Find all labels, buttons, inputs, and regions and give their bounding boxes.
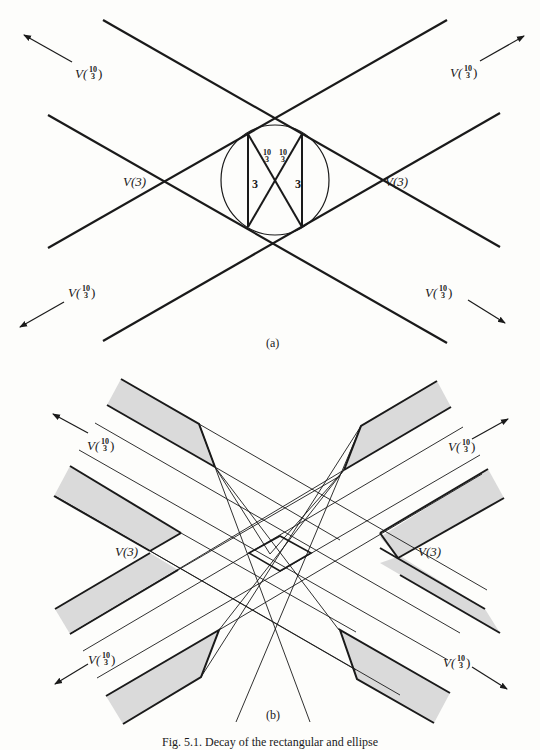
arrow-a-top-left bbox=[24, 35, 72, 62]
label-b-top-left: V( 10 3 ) bbox=[87, 437, 114, 453]
panel-b-thin-lines-desc bbox=[55, 423, 487, 695]
label-b-bottom-right: V( 10 3 ) bbox=[443, 654, 470, 670]
label-b-top-right: V( 10 3 ) bbox=[448, 438, 475, 454]
svg-text:V(: V( bbox=[425, 285, 438, 300]
svg-text:3: 3 bbox=[281, 155, 285, 164]
svg-text:3: 3 bbox=[464, 445, 468, 454]
arrow-a-top-right bbox=[480, 36, 524, 61]
svg-text:V(: V( bbox=[88, 652, 101, 667]
svg-text:3: 3 bbox=[103, 444, 107, 453]
svg-text:): ) bbox=[448, 285, 452, 300]
label-a-top-left: V( 10 3 ) bbox=[75, 65, 102, 81]
svg-text:3: 3 bbox=[104, 658, 108, 667]
svg-text:3: 3 bbox=[459, 661, 463, 670]
svg-text:V(: V( bbox=[75, 66, 88, 81]
label-a-bottom-left: V( 10 3 ) bbox=[68, 284, 95, 300]
svg-text:3: 3 bbox=[466, 71, 470, 80]
svg-text:): ) bbox=[466, 655, 470, 670]
svg-text:V(: V( bbox=[448, 439, 461, 454]
label-b-bottom-left: V( 10 3 ) bbox=[88, 651, 115, 667]
arrow-b-bottom-right bbox=[472, 667, 507, 689]
svg-text:): ) bbox=[98, 66, 102, 81]
arrow-b-bottom-left bbox=[55, 664, 88, 684]
label-b-left-v3: V(3) bbox=[115, 544, 138, 559]
arrow-a-bottom-left bbox=[20, 302, 64, 327]
panel-a-label: (a) bbox=[266, 336, 279, 350]
svg-text:): ) bbox=[110, 438, 114, 453]
diag-label-left: 10 3 bbox=[263, 148, 271, 164]
arrow-b-top-left bbox=[53, 414, 88, 433]
panel-a: 3 3 10 3 10 3 V( 10 3 ) V( 10 3 ) bbox=[20, 20, 524, 350]
svg-text:V(: V( bbox=[87, 438, 100, 453]
svg-text:): ) bbox=[91, 285, 95, 300]
svg-text:3: 3 bbox=[265, 155, 269, 164]
label-a-right-v3: V(3) bbox=[385, 174, 408, 189]
arrow-a-bottom-right bbox=[468, 300, 505, 323]
svg-text:3: 3 bbox=[91, 72, 95, 81]
svg-text:V(: V( bbox=[443, 655, 456, 670]
svg-text:V(: V( bbox=[450, 65, 463, 80]
svg-text:): ) bbox=[111, 652, 115, 667]
panel-b-label: (b) bbox=[266, 708, 280, 722]
label-a-left-v3: V(3) bbox=[123, 174, 146, 189]
svg-text:): ) bbox=[471, 439, 475, 454]
label-b-right-v3: V(3) bbox=[418, 544, 441, 559]
figure-canvas: 3 3 10 3 10 3 V( 10 3 ) V( 10 3 ) bbox=[0, 0, 540, 750]
svg-text:3: 3 bbox=[84, 291, 88, 300]
panel-b-steep-lines bbox=[199, 424, 361, 722]
side-label-left: 3 bbox=[252, 177, 258, 191]
svg-text:3: 3 bbox=[441, 291, 445, 300]
label-a-top-right: V( 10 3 ) bbox=[450, 64, 477, 80]
svg-text:): ) bbox=[473, 65, 477, 80]
label-a-bottom-right: V( 10 3 ) bbox=[425, 284, 452, 300]
figure-caption: Fig. 5.1. Decay of the rectangular and e… bbox=[0, 735, 540, 750]
panel-b: V( 10 3 ) V( 10 3 ) V( 10 3 ) V( 10 3 ) … bbox=[53, 379, 508, 724]
side-label-right: 3 bbox=[295, 177, 301, 191]
svg-text:V(: V( bbox=[68, 285, 81, 300]
arrow-b-top-right bbox=[472, 419, 508, 439]
